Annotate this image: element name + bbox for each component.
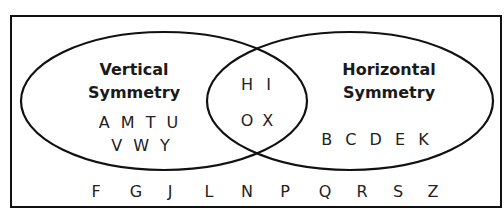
outside-letter: Z <box>428 182 439 201</box>
outside-letter: G <box>130 182 142 201</box>
venn-diagram: Vertical Symmetry A M T U V W Y H I O X … <box>0 0 504 215</box>
outside-letter: S <box>393 182 403 201</box>
outside-letters: F G J L N P Q R S Z <box>91 182 438 201</box>
outside-letter: N <box>241 182 253 201</box>
outside-letter: P <box>280 182 290 201</box>
vertical-only-letters-row2: V W Y <box>111 136 173 155</box>
outside-letter: J <box>167 182 173 201</box>
intersection-letters-row2: O X <box>241 111 276 130</box>
horizontal-set-title-line1: Horizontal <box>342 60 435 79</box>
horizontal-only-letters: B C D E K <box>321 130 432 149</box>
intersection-letters-row1: H I <box>241 75 275 94</box>
horizontal-set-title-line2: Symmetry <box>343 83 436 102</box>
outside-letter: R <box>356 182 367 201</box>
vertical-set-title-line1: Vertical <box>99 60 168 79</box>
vertical-only-letters-row1: A M T U <box>99 113 182 132</box>
outside-letter: L <box>205 182 214 201</box>
outside-letter: Q <box>319 182 332 201</box>
outside-letter: F <box>91 182 100 201</box>
vertical-set-title-line2: Symmetry <box>88 83 181 102</box>
